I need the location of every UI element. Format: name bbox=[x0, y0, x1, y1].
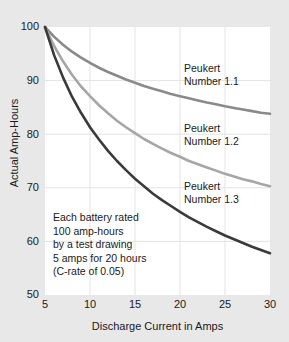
x-tick-5: 5 bbox=[30, 298, 60, 310]
annotation-peukert-1-2-line1: Peukert bbox=[184, 122, 239, 135]
annotation-peukert-1-2: Peukert Number 1.2 bbox=[184, 122, 239, 148]
x-tick-25: 25 bbox=[210, 298, 240, 310]
x-axis-label: Discharge Current in Amps bbox=[45, 320, 270, 332]
annotation-peukert-1-2-line2: Number 1.2 bbox=[184, 135, 239, 148]
chart-canvas bbox=[0, 0, 289, 342]
x-tick-15: 15 bbox=[120, 298, 150, 310]
battery-rating-note: Each battery rated 100 amp-hours by a te… bbox=[53, 211, 146, 279]
annotation-peukert-1-1-line1: Peukert bbox=[184, 62, 239, 75]
note-line-5: (C-rate of 0.05) bbox=[53, 265, 146, 279]
annotation-peukert-1-3-line1: Peukert bbox=[184, 180, 239, 193]
y-axis-label: Actual Amp-Hours bbox=[8, 83, 20, 203]
x-tick-10: 10 bbox=[75, 298, 105, 310]
annotation-peukert-1-1-line2: Number 1.1 bbox=[184, 75, 239, 88]
note-line-4: 5 amps for 20 hours bbox=[53, 252, 146, 266]
x-tick-20: 20 bbox=[165, 298, 195, 310]
annotation-peukert-1-1: Peukert Number 1.1 bbox=[184, 62, 239, 88]
annotation-peukert-1-3: Peukert Number 1.3 bbox=[184, 180, 239, 206]
x-tick-30: 30 bbox=[255, 298, 285, 310]
annotation-peukert-1-3-line2: Number 1.3 bbox=[184, 193, 239, 206]
note-line-2: 100 amp-hours bbox=[53, 225, 146, 239]
y-tick-100: 100 bbox=[3, 20, 39, 32]
peukert-chart-figure: 100 90 80 70 60 50 5 10 15 20 25 30 Actu… bbox=[0, 0, 289, 342]
note-line-3: by a test drawing bbox=[53, 238, 146, 252]
y-tick-60: 60 bbox=[3, 235, 39, 247]
note-line-1: Each battery rated bbox=[53, 211, 146, 225]
